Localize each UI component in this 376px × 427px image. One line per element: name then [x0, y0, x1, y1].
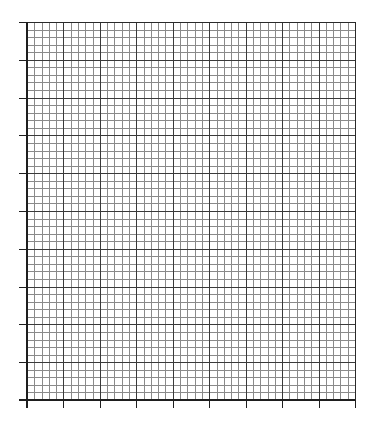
y-ticks: [19, 23, 27, 401]
x-ticks: [28, 400, 356, 408]
plot-area: [19, 22, 356, 408]
graph-paper-chart: [0, 0, 376, 427]
major-grid: [27, 22, 356, 401]
